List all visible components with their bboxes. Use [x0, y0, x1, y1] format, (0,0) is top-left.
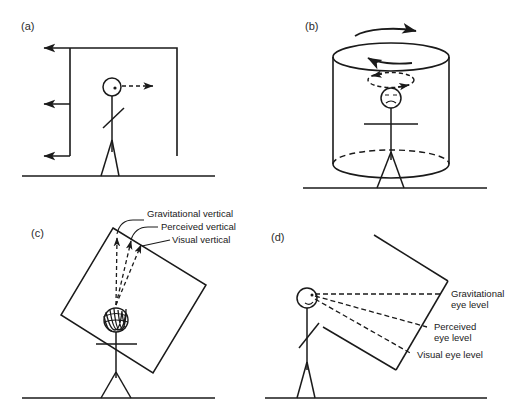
panel-c-label: (c) — [31, 227, 44, 239]
head-a — [103, 78, 121, 96]
leg-right-b — [391, 152, 404, 188]
head-b — [381, 88, 401, 108]
panel-a-label: (a) — [21, 20, 34, 32]
label-visual-eye-level: Visual eye level — [417, 349, 483, 360]
leg-left-a — [101, 140, 112, 176]
label-gravitational-eye-level-line2: eye level — [451, 299, 489, 310]
tilted-room-c — [61, 228, 206, 373]
leg-left-d — [297, 362, 307, 398]
vertical-reference-lines-c — [116, 238, 141, 305]
head-scribbled-c — [104, 308, 128, 332]
visual-eye-level-line-d — [315, 299, 412, 354]
head-d — [297, 288, 317, 308]
self-rotation-arrow-right — [398, 85, 409, 87]
label-perceived-eye-level-line2: eye level — [434, 332, 472, 343]
leader-perceived-vertical — [131, 227, 158, 240]
frame-motion-arrows-a — [44, 48, 70, 156]
label-gravitational-vertical: Gravitational vertical — [147, 208, 233, 219]
label-gravitational-eye-level-line1: Gravitational — [451, 288, 504, 299]
stick-figure-c — [96, 308, 137, 398]
drum-top-ellipse — [333, 43, 449, 71]
panel-b: (b) — [303, 20, 487, 188]
drum-bottom-front — [333, 164, 449, 178]
self-rotation-arrow-left — [372, 74, 382, 76]
gravitational-vertical-line-c — [116, 238, 117, 305]
leg-left-c — [101, 372, 116, 398]
label-perceived-eye-level-line1: Perceived — [434, 321, 476, 332]
figure-container: (a) (b) — [0, 0, 519, 416]
panel-a: (a) — [21, 20, 215, 176]
eye-d — [311, 294, 314, 297]
perceived-eye-level-line-d — [315, 296, 427, 327]
arm-a — [103, 108, 124, 128]
panel-c: (c) Gravi — [22, 208, 236, 398]
leader-visual-vertical — [142, 240, 170, 246]
leg-right-d — [307, 362, 315, 398]
label-visual-vertical: Visual vertical — [172, 234, 230, 245]
arm-d — [299, 323, 319, 348]
self-rotation-indicator-b — [368, 73, 414, 88]
figure-canvas: (a) (b) — [0, 0, 519, 416]
corridor-upper-edge — [374, 235, 448, 281]
label-perceived-vertical: Perceived vertical — [161, 221, 236, 232]
panel-b-label: (b) — [305, 20, 318, 32]
stick-figure-b — [364, 88, 418, 188]
drum-rotation-arrow-outer — [355, 29, 416, 36]
leg-right-a — [112, 140, 119, 176]
panel-d: (d) Gravitational eye level Per — [265, 231, 504, 398]
stick-figure-d — [297, 288, 319, 398]
room-frame-a — [70, 48, 177, 156]
eye-level-reference-lines-d — [315, 294, 443, 354]
eye-a — [113, 86, 116, 89]
corridor-lower-edge — [323, 327, 396, 370]
perceived-vertical-line-c — [116, 241, 131, 305]
leader-gravitational-vertical — [117, 220, 144, 234]
drum-rotation-arrow-inner — [368, 58, 412, 64]
stick-figure-a — [101, 78, 124, 176]
leg-left-b — [377, 152, 391, 188]
panel-d-label: (d) — [271, 231, 284, 243]
leg-right-c — [116, 372, 131, 398]
